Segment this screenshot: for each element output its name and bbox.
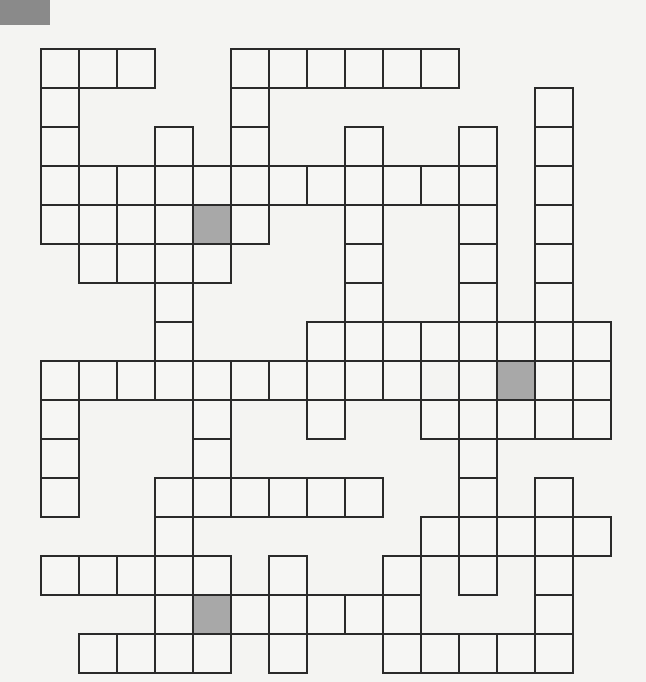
grid-cell[interactable] <box>154 126 194 167</box>
grid-cell[interactable] <box>116 243 156 284</box>
grid-cell[interactable] <box>572 516 612 557</box>
grid-cell[interactable] <box>534 633 574 674</box>
grid-cell[interactable] <box>192 360 232 401</box>
grid-cell[interactable] <box>534 87 574 128</box>
grid-cell[interactable] <box>344 204 384 245</box>
grid-cell[interactable] <box>154 477 194 518</box>
grid-cell[interactable] <box>192 165 232 206</box>
grid-cell[interactable] <box>420 321 460 362</box>
grid-cell[interactable] <box>40 438 80 479</box>
grid-cell[interactable] <box>192 633 232 674</box>
grid-cell[interactable] <box>458 633 498 674</box>
grid-cell[interactable] <box>458 555 498 596</box>
grid-cell[interactable] <box>78 48 118 89</box>
grid-cell[interactable] <box>534 399 574 440</box>
grid-cell[interactable] <box>420 399 460 440</box>
grid-cell[interactable] <box>458 516 498 557</box>
grid-cell[interactable] <box>154 282 194 323</box>
grid-cell[interactable] <box>534 282 574 323</box>
grid-cell[interactable] <box>40 477 80 518</box>
grid-cell[interactable] <box>78 243 118 284</box>
grid-cell[interactable] <box>40 126 80 167</box>
grid-cell[interactable] <box>40 48 80 89</box>
grid-cell[interactable] <box>154 321 194 362</box>
grid-cell[interactable] <box>458 321 498 362</box>
grid-cell[interactable] <box>154 243 194 284</box>
grid-cell[interactable] <box>192 243 232 284</box>
grid-cell[interactable] <box>192 438 232 479</box>
grid-cell[interactable] <box>268 477 308 518</box>
grid-cell[interactable] <box>496 516 536 557</box>
grid-cell[interactable] <box>534 360 574 401</box>
grid-cell[interactable] <box>534 243 574 284</box>
grid-cell[interactable] <box>78 204 118 245</box>
grid-cell[interactable] <box>496 633 536 674</box>
grid-cell[interactable] <box>230 360 270 401</box>
grid-cell[interactable] <box>458 282 498 323</box>
grid-cell[interactable] <box>344 282 384 323</box>
grid-cell[interactable] <box>534 321 574 362</box>
grid-cell[interactable] <box>230 165 270 206</box>
grid-cell[interactable] <box>192 477 232 518</box>
grid-cell[interactable] <box>458 204 498 245</box>
grid-cell[interactable] <box>306 477 346 518</box>
grid-cell[interactable] <box>268 633 308 674</box>
grid-cell[interactable] <box>230 594 270 635</box>
grid-cell[interactable] <box>230 87 270 128</box>
grid-cell[interactable] <box>458 477 498 518</box>
grid-cell[interactable] <box>154 165 194 206</box>
grid-cell[interactable] <box>534 165 574 206</box>
grid-cell[interactable] <box>496 399 536 440</box>
grid-cell[interactable] <box>534 204 574 245</box>
grid-cell[interactable] <box>40 204 80 245</box>
grid-cell[interactable] <box>382 360 422 401</box>
grid-cell[interactable] <box>268 48 308 89</box>
grid-cell[interactable] <box>40 555 80 596</box>
grid-cell[interactable] <box>344 48 384 89</box>
grid-cell[interactable] <box>116 360 156 401</box>
grid-cell[interactable] <box>458 438 498 479</box>
grid-cell[interactable] <box>154 204 194 245</box>
grid-cell[interactable] <box>116 48 156 89</box>
grid-cell[interactable] <box>382 48 422 89</box>
grid-cell[interactable] <box>78 360 118 401</box>
grid-cell[interactable] <box>534 126 574 167</box>
grid-cell[interactable] <box>382 555 422 596</box>
grid-cell[interactable] <box>382 594 422 635</box>
grid-cell[interactable] <box>458 360 498 401</box>
grid-cell[interactable] <box>154 633 194 674</box>
grid-cell[interactable] <box>420 48 460 89</box>
grid-cell[interactable] <box>268 360 308 401</box>
grid-cell[interactable] <box>458 165 498 206</box>
grid-cell[interactable] <box>40 87 80 128</box>
grid-cell[interactable] <box>306 48 346 89</box>
grid-cell[interactable] <box>230 48 270 89</box>
grid-cell[interactable] <box>420 516 460 557</box>
grid-cell[interactable] <box>40 399 80 440</box>
grid-cell[interactable] <box>192 399 232 440</box>
grid-cell[interactable] <box>458 399 498 440</box>
grid-cell[interactable] <box>382 633 422 674</box>
grid-cell[interactable] <box>458 126 498 167</box>
grid-cell[interactable] <box>458 243 498 284</box>
grid-cell[interactable] <box>572 399 612 440</box>
grid-cell[interactable] <box>534 516 574 557</box>
grid-cell[interactable] <box>268 165 308 206</box>
grid-cell[interactable] <box>496 321 536 362</box>
grid-cell[interactable] <box>268 594 308 635</box>
grid-cell[interactable] <box>420 633 460 674</box>
grid-cell[interactable] <box>344 126 384 167</box>
grid-cell[interactable] <box>154 594 194 635</box>
grid-cell[interactable] <box>572 321 612 362</box>
grid-cell[interactable] <box>344 243 384 284</box>
grid-cell[interactable] <box>116 555 156 596</box>
grid-cell[interactable] <box>534 594 574 635</box>
grid-cell[interactable] <box>116 204 156 245</box>
grid-cell[interactable] <box>154 360 194 401</box>
grid-cell[interactable] <box>230 126 270 167</box>
grid-cell[interactable] <box>306 360 346 401</box>
grid-cell[interactable] <box>116 633 156 674</box>
grid-cell[interactable] <box>192 555 232 596</box>
grid-cell[interactable] <box>78 633 118 674</box>
grid-cell[interactable] <box>534 477 574 518</box>
